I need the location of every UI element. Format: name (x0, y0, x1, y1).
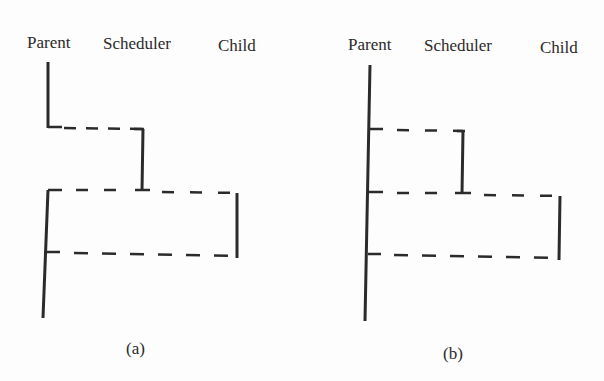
panel-b-switch-scheduler-to-child (484, 195, 562, 196)
panel-b-switch-parent-to-scheduler (397, 130, 463, 131)
panel-a-switch-scheduler-to-child (162, 192, 240, 193)
panel-a-diagram (43, 62, 240, 318)
diagram-canvas: Parent Scheduler Child (a) Parent Schedu… (0, 0, 604, 381)
panel-a-scheduler-run (142, 129, 143, 191)
panel-a-parent-run-2 (43, 190, 48, 318)
panel-b-scheduler-run (462, 131, 463, 194)
timeline-diagram (0, 0, 604, 381)
panel-b-child-run (559, 196, 560, 260)
panel-a-switch-parent-to-scheduler (64, 128, 142, 129)
panel-a-return-child-to-parent (74, 253, 236, 256)
panel-b-return-child-to-parent (394, 255, 558, 258)
panel-b-diagram (365, 65, 562, 321)
